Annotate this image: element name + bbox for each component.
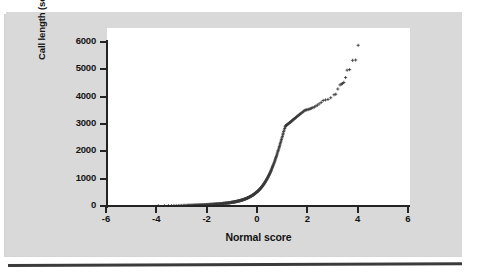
- y-tick-mark: [100, 41, 106, 43]
- y-tick-label: 0: [52, 199, 96, 210]
- y-tick-label: 1000: [52, 172, 96, 183]
- figure-normal-probability-plot: 0100020003000400050006000 -6-4-20246 Cal…: [0, 0, 483, 279]
- x-tick-label: 2: [295, 213, 319, 224]
- y-tick-label: 5000: [52, 62, 96, 73]
- y-tick-label: 2000: [52, 144, 96, 155]
- y-tick-mark: [100, 68, 106, 70]
- y-tick-mark: [100, 123, 106, 125]
- y-tick-mark: [100, 150, 106, 152]
- x-tick-label: 6: [396, 213, 420, 224]
- y-tick-label: 3000: [52, 117, 96, 128]
- x-tick-label: 0: [245, 213, 269, 224]
- x-tick-label: -6: [94, 213, 118, 224]
- y-tick-label: 4000: [52, 90, 96, 101]
- y-tick-mark: [100, 96, 106, 98]
- x-tick-label: -2: [195, 213, 219, 224]
- x-tick-label: -4: [144, 213, 168, 224]
- x-axis-title: Normal score: [107, 231, 410, 243]
- y-tick-mark: [100, 178, 106, 180]
- x-tick-label: 4: [346, 213, 370, 224]
- y-tick-label: 6000: [52, 35, 96, 46]
- y-axis-title: Call length (seconds): [36, 0, 47, 60]
